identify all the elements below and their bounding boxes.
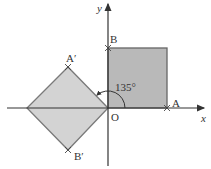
- x-axis-label: x: [200, 112, 206, 124]
- y-axis-label: y: [96, 2, 102, 14]
- original-square: [108, 48, 167, 108]
- origin-label: O: [111, 111, 119, 123]
- diagram-canvas: y x B A O A′ B′ 135°: [0, 0, 211, 169]
- point-label-a-prime: A′: [66, 52, 76, 64]
- angle-label: 135°: [115, 81, 136, 93]
- point-label-b-prime: B′: [74, 150, 84, 162]
- point-label-b: B: [110, 33, 117, 45]
- point-label-a: A: [172, 97, 180, 109]
